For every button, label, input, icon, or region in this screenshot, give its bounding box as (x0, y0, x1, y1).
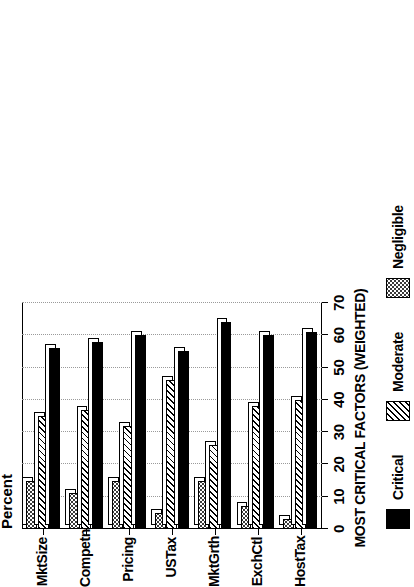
category-label-competn: Competn (77, 537, 93, 587)
bar-front-face (221, 322, 232, 529)
category-label-hosttax: HostTax (292, 537, 308, 587)
chart-legend: CriticalModerateNegligible (378, 27, 414, 547)
bar-front-face (306, 332, 317, 529)
legend-item-moderate[interactable]: Moderate (386, 332, 410, 421)
bar-mktsize-critical (49, 348, 60, 529)
category-axis-tick (301, 529, 302, 535)
value-axis-tick (322, 463, 328, 464)
bar-front-face (49, 348, 60, 529)
value-axis-tick-label: 10 (330, 480, 347, 514)
legend-item-negligible[interactable]: Negligible (386, 205, 410, 298)
category-label-ustax: USTax (163, 537, 179, 587)
value-axis-tick-label: 60 (330, 318, 347, 352)
category-label-exchctl: ExchCtl (249, 537, 265, 587)
legend-swatch-critical (386, 509, 410, 529)
bar-exchctl-critical (263, 335, 274, 529)
value-axis-tick-label: 40 (330, 383, 347, 417)
value-axis-tick (322, 496, 328, 497)
category-label-mktgrth: MktGrth (206, 537, 222, 587)
value-axis-tick-label: 20 (330, 447, 347, 481)
category-axis-tick (215, 529, 216, 535)
value-axis-tick (322, 431, 328, 432)
category-label-pricing: Pricing (120, 537, 136, 587)
value-axis-tick (322, 334, 328, 335)
gridline (22, 367, 322, 368)
bar-front-face (178, 351, 189, 529)
gridline (22, 302, 322, 303)
value-axis-tick (322, 302, 328, 303)
legend-label-critical: Critical (390, 455, 406, 500)
bar-front-face (263, 335, 274, 529)
value-axis-title: Percent (0, 474, 15, 529)
legend-label-moderate: Moderate (390, 332, 406, 392)
value-axis-tick (322, 367, 328, 368)
legend-label-negligible: Negligible (390, 205, 406, 269)
value-axis-tick-label: 30 (330, 415, 347, 449)
bar-front-face (92, 342, 103, 529)
legend-item-critical[interactable]: Critical (386, 455, 410, 529)
category-label-mktsize: MktSize (34, 537, 50, 587)
category-axis-tick (129, 529, 130, 535)
bar-mktgrth-critical (221, 322, 232, 529)
bar-front-face (135, 335, 146, 529)
value-axis-tick-label: 50 (330, 351, 347, 385)
category-axis-tick (172, 529, 173, 535)
category-axis-tick (43, 529, 44, 535)
legend-swatch-moderate (386, 401, 410, 421)
category-axis-title: MOST CRITICAL FACTORS (WEIGHTED) (352, 243, 368, 587)
bar-hosttax-critical (306, 332, 317, 529)
bar-ustax-critical (178, 351, 189, 529)
value-axis-tick-label: 70 (330, 286, 347, 320)
value-axis-tick-label: 0 (330, 512, 347, 546)
bar-pricing-critical (135, 335, 146, 529)
bar-competn-critical (92, 342, 103, 529)
category-axis-tick (258, 529, 259, 535)
value-axis-tick (322, 399, 328, 400)
gridline (22, 334, 322, 335)
legend-swatch-negligible (386, 278, 410, 298)
value-axis-tick (322, 528, 328, 529)
